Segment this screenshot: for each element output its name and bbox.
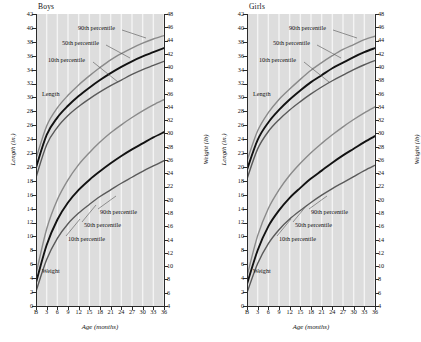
y-tickmark-left	[32, 292, 36, 293]
y-tick-left: 10	[15, 233, 33, 239]
y-tickmark-right	[375, 67, 379, 68]
y-tickmark-left	[243, 111, 247, 112]
y-axis-left-girls	[247, 14, 248, 306]
y-tickmark-right	[375, 200, 379, 201]
y-tick-left: 8	[226, 247, 244, 253]
y-tick-left: 28	[15, 108, 33, 114]
annotation-50th-percentile: 50th percentile	[62, 40, 99, 46]
y-tickmark-right	[164, 253, 168, 254]
y-tickmark-left	[32, 97, 36, 98]
annotation-weight: Weight	[42, 268, 60, 274]
y-tick-left: 30	[226, 94, 244, 100]
y-tick-left: 10	[226, 233, 244, 239]
y-tickmark-right	[375, 253, 379, 254]
x-tickmark	[47, 306, 48, 310]
y-tickmark-left	[32, 209, 36, 210]
y-tick-left: 4	[15, 275, 33, 281]
y-tickmark-right	[375, 14, 379, 15]
x-tickmark	[268, 306, 269, 310]
y-tick-left: 18	[15, 178, 33, 184]
y-tickmark-left	[32, 56, 36, 57]
y-tick-left: 14	[15, 206, 33, 212]
panel-title-girls: Girls	[249, 2, 265, 11]
y-tick-left: 14	[226, 206, 244, 212]
annotation-50th-percentile: 50th percentile	[84, 222, 121, 228]
y-tickmark-right	[164, 173, 168, 174]
y-tickmark-right	[375, 240, 379, 241]
y-tick-left: 20	[226, 164, 244, 170]
y-tickmark-left	[32, 250, 36, 251]
y-tick-left: 42	[15, 11, 33, 17]
y-tickmark-left	[32, 139, 36, 140]
y-tick-left: 36	[226, 53, 244, 59]
y-tickmark-left	[243, 28, 247, 29]
y-tick-left: 30	[15, 94, 33, 100]
y-tickmark-left	[32, 223, 36, 224]
annotation-10th-percentile: 10th percentile	[68, 236, 105, 242]
y-tick-left: 24	[15, 136, 33, 142]
y-tickmark-right	[375, 41, 379, 42]
y-tickmark-left	[32, 70, 36, 71]
panel-girls: Girls 0246810121416182022242628303234363…	[211, 0, 421, 342]
y-tickmark-left	[243, 223, 247, 224]
y-tickmark-left	[32, 153, 36, 154]
x-tickmark	[300, 306, 301, 310]
y-tick-left: 40	[15, 25, 33, 31]
x-tickmark	[290, 306, 291, 310]
y-tickmark-left	[32, 42, 36, 43]
y-tickmark-right	[375, 94, 379, 95]
annotation-90th-percentile: 90th percentile	[311, 209, 348, 215]
y-tickmark-right	[375, 80, 379, 81]
y-tickmark-right	[375, 293, 379, 294]
y-tickmark-left	[32, 84, 36, 85]
y-tickmark-left	[32, 167, 36, 168]
y-tickmark-left	[32, 28, 36, 29]
y-tickmark-left	[243, 195, 247, 196]
x-tickmark	[36, 306, 37, 310]
y-tickmark-left	[32, 264, 36, 265]
y-tick-left: 4	[226, 275, 244, 281]
y-tickmark-left	[32, 125, 36, 126]
annotation-90th-percentile: 90th percentile	[78, 25, 115, 31]
y-tick-left: 6	[226, 261, 244, 267]
y-tickmark-left	[32, 278, 36, 279]
y-axis-label-right-girls: Weight (lb)	[413, 100, 420, 200]
y-tickmark-right	[164, 213, 168, 214]
y-tickmark-right	[375, 120, 379, 121]
x-tickmark	[57, 306, 58, 310]
y-tick-left: 26	[15, 122, 33, 128]
y-tickmark-right	[164, 14, 168, 15]
y-tickmark-left	[243, 125, 247, 126]
y-tick-left: 16	[226, 192, 244, 198]
y-tickmark-left	[243, 264, 247, 265]
y-tickmark-right	[164, 266, 168, 267]
x-tickmark	[111, 306, 112, 310]
y-tickmark-left	[32, 236, 36, 237]
y-tick-left: 16	[15, 192, 33, 198]
y-tickmark-right	[164, 67, 168, 68]
y-tickmark-right	[164, 226, 168, 227]
y-tick-left: 2	[226, 289, 244, 295]
y-tickmark-left	[243, 42, 247, 43]
x-tickmark	[311, 306, 312, 310]
x-axis-label-boys: Age (months)	[36, 323, 164, 330]
y-tick-left: 18	[226, 178, 244, 184]
y-tick-left: 32	[226, 80, 244, 86]
y-tickmark-left	[32, 195, 36, 196]
x-tickmark	[164, 306, 165, 310]
y-axis-label-left-girls: Length (in.)	[220, 100, 227, 200]
y-tickmark-right	[164, 133, 168, 134]
y-tickmark-right	[164, 94, 168, 95]
y-tickmark-left	[243, 236, 247, 237]
x-tickmark	[322, 306, 323, 310]
y-tick-left: 42	[226, 11, 244, 17]
y-tickmark-right	[375, 160, 379, 161]
y-tickmark-left	[243, 292, 247, 293]
x-tickmark	[332, 306, 333, 310]
y-tickmark-right	[164, 80, 168, 81]
y-tickmark-left	[243, 14, 247, 15]
x-tickmark	[68, 306, 69, 310]
annotation-90th-percentile: 90th percentile	[100, 209, 137, 215]
y-tick-left: 2	[15, 289, 33, 295]
y-tickmark-left	[243, 56, 247, 57]
